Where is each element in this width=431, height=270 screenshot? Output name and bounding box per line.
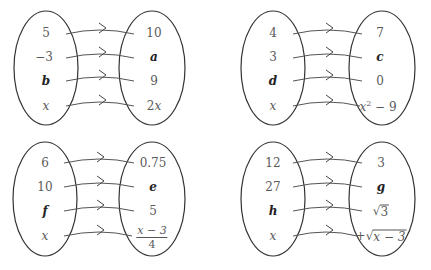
range-variable: a [150, 51, 158, 63]
range-value: 0.75 [140, 157, 167, 169]
domain-variable: d [269, 75, 277, 87]
domain-value: 27 [265, 181, 280, 193]
domain-value: 10 [37, 181, 52, 193]
range-variable: c [376, 51, 383, 63]
domain-variable: b [42, 75, 50, 87]
domain-value: 6 [41, 157, 49, 169]
range-expression-sqrt: √3 [373, 205, 389, 218]
domain-value: x [43, 100, 50, 112]
range-expression-sqrt: +√x − 3 [356, 230, 407, 243]
domain-value: 12 [265, 157, 280, 169]
range-value: 3 [377, 157, 385, 169]
range-expression: 2x [147, 100, 161, 112]
domain-value: 4 [269, 27, 277, 39]
range-expression-fraction: x − 34 [136, 224, 167, 250]
domain-value: x [270, 230, 277, 242]
domain-value: x [42, 230, 49, 242]
range-value: 7 [376, 27, 384, 39]
range-value: 10 [146, 27, 161, 39]
range-expression: x2 − 9 [359, 100, 396, 113]
range-variable: g [377, 181, 385, 193]
range-value: 9 [150, 75, 158, 87]
fraction-denominator: 4 [148, 238, 155, 250]
range-variable: e [149, 181, 157, 193]
fraction-numerator: x − 3 [136, 225, 167, 238]
domain-value: −3 [35, 51, 53, 63]
domain-variable: h [269, 205, 278, 217]
range-value: 0 [376, 75, 384, 87]
range-value: 5 [149, 205, 157, 217]
domain-value: x [270, 100, 277, 112]
domain-value: 3 [269, 51, 277, 63]
domain-variable: f [42, 205, 47, 217]
domain-value: 5 [42, 27, 50, 39]
